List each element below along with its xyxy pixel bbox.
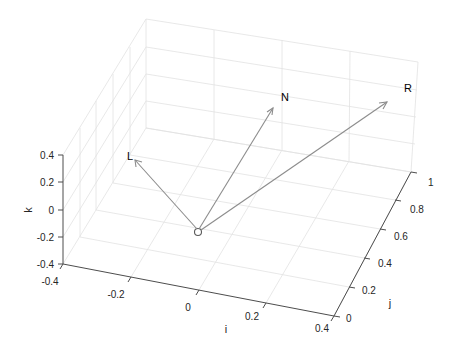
x-tick: 0.4 xyxy=(315,323,329,334)
y-axis-label: j xyxy=(388,297,391,309)
z-tick: 0 xyxy=(48,205,54,216)
z-tick: 0.2 xyxy=(40,177,54,188)
x-axis-label: i xyxy=(225,323,227,335)
origin-marker xyxy=(195,229,202,236)
quiver-plot-3d: 0.4 0.2 0 -0.2 -0.4 k -0.4 -0.2 0 0.2 0.… xyxy=(0,0,449,352)
y-tick: 0.8 xyxy=(410,204,424,215)
z-tick: -0.2 xyxy=(37,232,55,243)
x-tick-labels: -0.4 -0.2 0 0.2 0.4 xyxy=(41,276,329,334)
label-N: N xyxy=(281,91,289,103)
y-tick: 0.6 xyxy=(394,231,408,242)
z-tick: -0.4 xyxy=(37,259,55,270)
x-tick: -0.4 xyxy=(41,276,59,287)
y-tick: 1 xyxy=(428,177,434,188)
vector-R xyxy=(201,102,387,230)
arrowhead-R xyxy=(379,102,387,109)
z-tick-labels: 0.4 0.2 0 -0.2 -0.4 xyxy=(37,150,55,270)
label-L: L xyxy=(127,150,133,162)
y-tick: 0.4 xyxy=(378,258,392,269)
label-R: R xyxy=(404,82,412,94)
z-axis-label: k xyxy=(22,207,34,213)
x-tick: 0.2 xyxy=(245,311,259,322)
z-tick: 0.4 xyxy=(40,150,54,161)
y-tick: 0 xyxy=(346,313,352,324)
x-tick: 0 xyxy=(185,302,191,313)
grid-lines xyxy=(63,19,418,316)
x-tick: -0.2 xyxy=(107,289,125,300)
y-tick: 0.2 xyxy=(362,285,376,296)
